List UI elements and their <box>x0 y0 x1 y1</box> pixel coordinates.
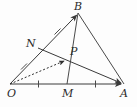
geometry-figure: O A B M N P <box>0 0 137 107</box>
label-N: N <box>25 37 36 50</box>
label-A: A <box>119 87 128 100</box>
label-M: M <box>61 87 74 100</box>
label-B: B <box>73 0 82 13</box>
label-P: P <box>69 45 78 58</box>
geometry-canvas: O A B M N P <box>0 0 137 107</box>
label-O: O <box>7 87 16 100</box>
